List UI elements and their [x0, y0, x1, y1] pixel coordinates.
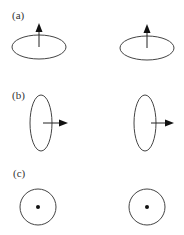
- panel-b-loop-left: [30, 95, 68, 151]
- panel-c: (c): [13, 167, 165, 225]
- panel-b-loop-right: [134, 95, 174, 151]
- arrow-right-icon: [59, 120, 68, 127]
- magnetic-moment-diagram: (a) (b) (c): [0, 0, 184, 235]
- panel-c-label: (c): [13, 167, 26, 180]
- panel-c-loop-right: [129, 189, 165, 225]
- panel-b-label: (b): [12, 89, 25, 102]
- out-of-page-dot-icon: [36, 205, 40, 209]
- panel-a-loop-right: [120, 24, 174, 60]
- panel-a: (a): [12, 9, 174, 60]
- panel-a-label: (a): [12, 9, 25, 22]
- panel-b: (b): [12, 89, 174, 151]
- arrow-up-icon: [144, 24, 151, 33]
- out-of-page-dot-icon: [145, 205, 149, 209]
- panel-c-loop-left: [20, 189, 56, 225]
- arrow-up-icon: [36, 23, 43, 32]
- arrow-right-icon: [165, 120, 174, 127]
- panel-a-loop-left: [12, 23, 66, 59]
